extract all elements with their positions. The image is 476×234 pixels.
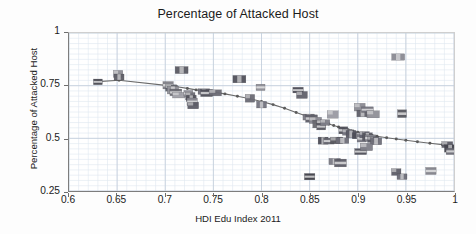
x-tick-label: 1 <box>432 194 476 205</box>
x-tick-mark <box>213 193 214 197</box>
x-tick-mark <box>165 193 166 197</box>
x-tick-mark <box>68 193 69 197</box>
x-tick-mark <box>358 193 359 197</box>
x-tick-mark <box>455 193 456 197</box>
x-tick-mark <box>116 193 117 197</box>
x-tick-labels: 0.60.650.70.750.80.850.90.951 <box>0 0 476 234</box>
x-tick-mark <box>262 193 263 197</box>
x-tick-mark <box>310 193 311 197</box>
chart-figure: Percentage of Attacked Host Percentage o… <box>0 0 476 234</box>
x-tick-mark <box>407 193 408 197</box>
